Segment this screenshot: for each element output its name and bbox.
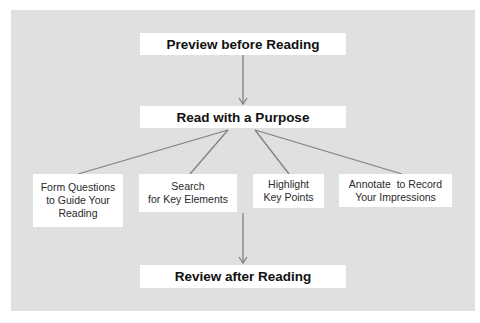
line-read-to-questions	[78, 130, 228, 174]
substep-form-questions: Form Questions to Guide Your Reading	[33, 174, 123, 227]
substep-line: Reading	[58, 207, 97, 220]
substep-line: Highlight	[268, 178, 309, 191]
step-label: Read with a Purpose	[177, 110, 310, 125]
substep-line: Form Questions	[41, 181, 116, 194]
line-read-to-search	[190, 130, 228, 174]
substep-annotate: Annotate to Record Your Impressions	[339, 174, 452, 207]
step-label: Preview before Reading	[166, 37, 319, 52]
substep-line: for Key Elements	[148, 193, 228, 206]
substep-line: Annotate to Record	[349, 178, 442, 191]
substep-line: Search	[171, 180, 204, 193]
step-preview-before-reading: Preview before Reading	[140, 33, 346, 55]
line-read-to-annotate	[255, 130, 402, 174]
substep-search: Search for Key Elements	[139, 174, 237, 212]
substep-line: Your Impressions	[355, 191, 436, 204]
substep-line: to Guide Your	[46, 194, 110, 207]
step-label: Review after Reading	[175, 269, 312, 284]
line-read-to-highlight	[255, 130, 289, 174]
substep-line: Key Points	[263, 191, 313, 204]
step-review-after-reading: Review after Reading	[140, 265, 346, 288]
step-read-with-purpose: Read with a Purpose	[140, 106, 346, 128]
substep-highlight: Highlight Key Points	[253, 174, 324, 208]
